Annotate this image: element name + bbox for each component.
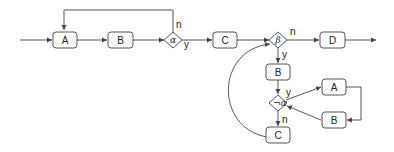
decision-not-alpha: ¬α [269, 95, 287, 111]
node-label: A [62, 35, 69, 46]
edge-label-alpha-y: y [184, 39, 189, 50]
edge-label-beta-n: n [290, 26, 296, 37]
decision-label: α [170, 35, 176, 45]
decision-label: β [274, 35, 280, 45]
node-b-1: B [108, 32, 133, 48]
edge-notalpha-y-to-a [286, 87, 321, 100]
node-d: D [320, 32, 345, 48]
edge-alpha-n-to-a [64, 10, 173, 32]
decision-alpha: α [164, 32, 182, 48]
node-a-2: A [322, 79, 346, 95]
decision-label: ¬α [273, 98, 287, 108]
node-label: C [221, 35, 228, 46]
edge-label-alpha-n: n [176, 19, 182, 30]
node-c-1: C [213, 32, 237, 48]
node-label: B [275, 67, 282, 78]
node-b-3: B [322, 112, 346, 128]
node-label: A [331, 82, 338, 93]
edge-label-not-alpha-y: y [286, 87, 291, 98]
edge-c-to-beta-curve [228, 44, 270, 137]
node-label: C [274, 130, 281, 141]
node-label: B [331, 115, 338, 126]
node-c-2: C [266, 127, 290, 143]
edge-a-to-b-loop [346, 87, 361, 120]
node-b-2: B [266, 64, 290, 80]
node-label: B [117, 35, 124, 46]
edge-label-not-alpha-n: n [282, 114, 288, 125]
node-label: D [329, 35, 336, 46]
edge-label-beta-y: y [282, 49, 287, 60]
edge-b-to-notalpha-back [287, 106, 321, 120]
flowchart-diagram: A B α C β D B ¬α A B C n y n y y [0, 0, 394, 152]
decision-beta: β [269, 32, 287, 48]
node-a-1: A [53, 32, 77, 48]
